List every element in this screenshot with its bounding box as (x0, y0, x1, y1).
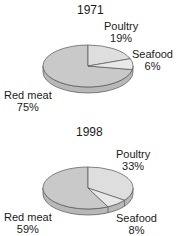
label-1971-poultry: Poultry 19% (104, 20, 138, 44)
label-1998-seafood-name: Seafood (116, 212, 157, 224)
label-1998-red-meat-name: Red meat (4, 211, 52, 223)
label-1998-poultry-pct: 33% (116, 160, 150, 172)
chart-title-1971: 1971 (77, 4, 104, 16)
chart-title-1998: 1998 (76, 126, 103, 138)
label-1971-red-meat-name: Red meat (4, 89, 52, 101)
label-1998-seafood: Seafood 8% (116, 212, 157, 236)
label-1998-red-meat: Red meat 59% (4, 211, 52, 235)
pie-1971 (43, 45, 133, 93)
label-1971-poultry-pct: 19% (104, 32, 138, 44)
label-1998-poultry-name: Poultry (116, 148, 150, 160)
label-1971-seafood-name: Seafood (132, 48, 173, 60)
label-1998-seafood-pct: 8% (116, 224, 157, 236)
pie-charts (0, 0, 179, 236)
label-1998-red-meat-pct: 59% (4, 223, 52, 235)
label-1971-seafood-pct: 6% (132, 60, 173, 72)
label-1971-red-meat: Red meat 75% (4, 89, 52, 113)
label-1971-red-meat-pct: 75% (4, 101, 52, 113)
label-1971-seafood: Seafood 6% (132, 48, 173, 72)
label-1971-poultry-name: Poultry (104, 20, 138, 32)
label-1998-poultry: Poultry 33% (116, 148, 150, 172)
pie-1998 (43, 167, 133, 215)
